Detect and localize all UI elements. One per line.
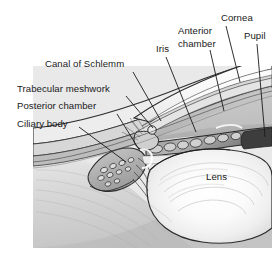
label-trabecular-meshwork: Trabecular meshwork [17,83,110,95]
eye-anatomy-figure: Canal of Schlemm Trabecular meshwork Pos… [0,0,279,258]
label-ciliary-body: Ciliary body [17,118,68,130]
label-anterior-chamber: Anterior chamber [178,24,216,50]
label-cornea: Cornea [221,12,253,24]
label-anterior-chamber-line1: Anterior [178,24,216,37]
label-lens: Lens [206,171,227,183]
label-anterior-chamber-line2: chamber [178,37,216,50]
label-canal-of-schlemm: Canal of Schlemm [45,58,124,70]
label-iris: Iris [156,43,169,55]
label-pupil: Pupil [244,30,266,42]
label-posterior-chamber: Posterior chamber [17,100,96,112]
